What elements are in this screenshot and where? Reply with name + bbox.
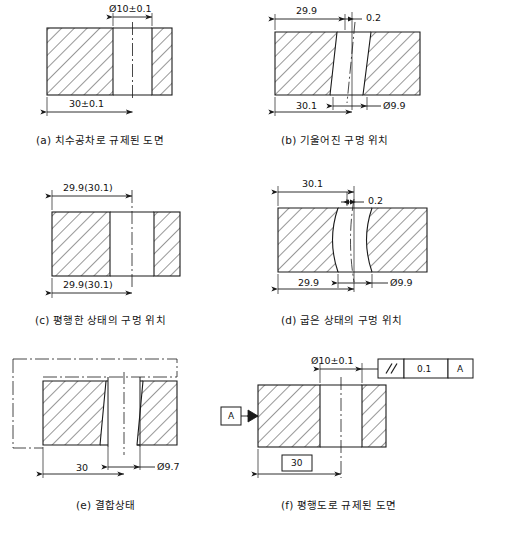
panel-d-right-body [367, 208, 428, 272]
panel-f-drawing [221, 359, 473, 478]
figure-sheet: Ø10±0.1 30±0.1 (a) 치수공차로 규제된 도면 29.9 0.2… [0, 0, 516, 537]
panel-f-basic-dim-text: 30 [291, 458, 302, 468]
panel-a-caption: (a) 치수공차로 규제된 도면 [36, 132, 164, 147]
panel-a-left-body [47, 28, 113, 95]
panel-b-lower-location-text: 30.1 [296, 100, 317, 111]
panel-c-right-body [154, 212, 180, 276]
panel-b-centerline [347, 22, 355, 103]
panel-f-diameter-text: Ø10±0.1 [311, 355, 354, 366]
panel-a-location-text: 30±0.1 [69, 98, 104, 109]
panel-e-right-body [137, 381, 177, 445]
panel-b-upper-location-text: 29.9 [296, 5, 317, 16]
panel-f-caption: (f) 평행도로 규제된 도면 [281, 497, 396, 512]
panel-f-datum-a [221, 407, 258, 425]
panel-f-datum-label: A [228, 411, 234, 421]
panel-e-drawing [13, 359, 177, 478]
panel-d-lower-location-text: 29.9 [298, 277, 319, 288]
panel-f-left-body [258, 385, 320, 447]
panel-b-left-body [275, 32, 337, 95]
panel-b-caption: (b) 기울어진 구멍 위치 [281, 132, 389, 147]
panel-d-left-body [278, 208, 338, 272]
panel-b-diameter-text: Ø9.9 [383, 100, 406, 111]
datum-triangle-icon [248, 410, 258, 422]
panel-e-diameter-text: Ø9.7 [157, 461, 180, 472]
panel-e-left-body [43, 381, 106, 445]
panel-b-right-body [363, 32, 420, 95]
panel-e-location-text: 30 [76, 462, 88, 473]
panel-c-lower-location-text: 29.9(30.1) [63, 279, 113, 290]
panel-f-right-body [362, 385, 386, 447]
panel-a-right-body [152, 28, 172, 95]
drawing-canvas [0, 0, 516, 537]
panel-d-diameter-text: Ø9.9 [390, 277, 413, 288]
panel-e-caption: (e) 결합상태 [76, 497, 136, 512]
panel-c-caption: (c) 평행한 상태의 구멍 위치 [35, 312, 166, 327]
panel-d-caption: (d) 굽은 상태의 구멍 위치 [281, 312, 402, 327]
panel-a-drawing [47, 13, 172, 116]
panel-d-offset-text: 0.2 [368, 195, 383, 206]
panel-f-datum-reference: A [457, 364, 463, 374]
panel-c-upper-location-text: 29.9(30.1) [63, 182, 113, 193]
panel-d-centerline [351, 199, 355, 282]
panel-d-upper-location-text: 30.1 [302, 178, 323, 189]
panel-c-left-body [52, 212, 110, 276]
panel-f-tolerance-value: 0.1 [417, 364, 431, 374]
panel-b-offset-text: 0.2 [366, 12, 381, 23]
panel-a-diameter-text: Ø10±0.1 [109, 3, 152, 14]
